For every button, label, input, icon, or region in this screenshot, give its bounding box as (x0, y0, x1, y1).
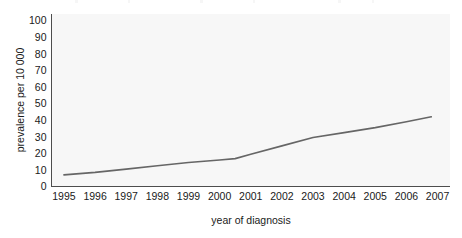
y-tick-label: 60 (35, 81, 47, 93)
x-axis-title: year of diagnosis (211, 214, 290, 226)
x-tick-label: 2005 (364, 190, 388, 202)
x-tick-label: 2006 (395, 190, 419, 202)
plot-area-background (52, 14, 451, 186)
y-tick-label: 100 (29, 14, 47, 26)
y-axis-title: prevalence per 10 000 (14, 48, 26, 153)
y-tick-label: 90 (35, 31, 47, 43)
x-tick-label: 1999 (177, 190, 201, 202)
y-tick-label: 20 (35, 147, 47, 159)
y-tick-label: 10 (35, 164, 47, 176)
x-tick-label: 2004 (332, 190, 356, 202)
y-tick-label: 80 (35, 48, 47, 60)
y-tick-label: 30 (35, 131, 47, 143)
x-tick-label: 1997 (115, 190, 139, 202)
x-tick-label: 2001 (239, 190, 263, 202)
line-chart: 0102030405060708090100 19951996199719981… (0, 0, 462, 238)
x-tick-label: 1996 (83, 190, 107, 202)
x-tick-label: 2007 (426, 190, 450, 202)
y-tick-label: 50 (35, 97, 47, 109)
y-tick-label: 0 (41, 180, 47, 192)
x-tick-label: 1998 (146, 190, 170, 202)
y-tick-label: 70 (35, 64, 47, 76)
y-tick-label: 40 (35, 114, 47, 126)
x-axis-tick-labels: 1995199619971998199920002001200220032004… (52, 190, 449, 202)
x-tick-label: 2000 (208, 190, 232, 202)
x-tick-label: 2002 (270, 190, 294, 202)
y-axis-tick-labels: 0102030405060708090100 (29, 14, 47, 192)
chart-figure: 0102030405060708090100 19951996199719981… (0, 0, 462, 238)
cropped-caption-artifact (75, 0, 374, 3)
x-tick-label: 2003 (301, 190, 325, 202)
x-tick-label: 1995 (52, 190, 76, 202)
